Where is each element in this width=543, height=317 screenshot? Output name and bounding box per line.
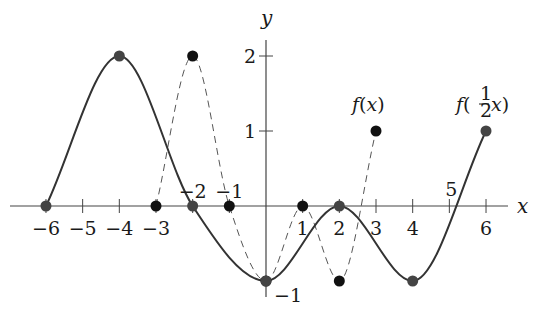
x-tick-label: −4 <box>105 217 133 239</box>
point-f-half-x <box>481 126 492 137</box>
x-tick-label: −5 <box>69 217 97 239</box>
x-tick-label: 3 <box>370 217 382 239</box>
tick-labels: −6−5−4−3−2−112345621−1 <box>32 45 492 306</box>
x-tick-label: −1 <box>215 180 243 202</box>
x-tick-label: 2 <box>333 217 345 239</box>
y-tick-label: −1 <box>274 284 302 306</box>
point-f-x <box>334 276 345 287</box>
y-tick-label: 1 <box>244 120 256 142</box>
x-tick-label: −3 <box>142 217 170 239</box>
x-tick-label: −6 <box>32 217 60 239</box>
series-label-f-half-x: f( 1 2 x) <box>454 82 509 121</box>
x-tick-label: −2 <box>179 180 207 202</box>
point-f-x <box>150 201 161 212</box>
function-transform-chart: −6−5−4−3−2−112345621−1 x y f(x) f( 1 2 x… <box>0 0 543 317</box>
axes <box>10 40 508 297</box>
point-f-half-x <box>114 51 125 62</box>
point-f-half-x <box>407 276 418 287</box>
svg-text:x): x) <box>491 93 509 115</box>
point-f-x <box>187 51 198 62</box>
x-tick-label: 6 <box>480 217 492 239</box>
y-tick-label: 2 <box>244 45 256 67</box>
series-label-f-x: f(x) <box>350 93 385 115</box>
point-f-half-x <box>334 201 345 212</box>
svg-text:f(: f( <box>454 93 470 115</box>
x-tick-label: 5 <box>445 178 457 200</box>
point-f-x <box>371 126 382 137</box>
y-axis-label: y <box>260 6 273 30</box>
x-tick-label: 1 <box>297 217 309 239</box>
point-f-half-x <box>40 201 51 212</box>
point-f-half-x <box>261 276 272 287</box>
point-f-x <box>224 201 235 212</box>
point-f-half-x <box>187 201 198 212</box>
x-axis-label: x <box>517 194 528 218</box>
point-f-x <box>297 201 308 212</box>
x-tick-label: 4 <box>407 217 419 239</box>
